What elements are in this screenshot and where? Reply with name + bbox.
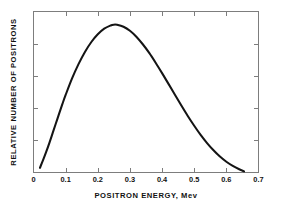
chart-background <box>0 0 282 208</box>
x-tick-label-2: 0.2 <box>93 175 103 184</box>
x-tick-label-0: 0 <box>31 175 35 184</box>
x-tick-label-7: 0.7 <box>253 175 263 184</box>
positron-spectrum-chart: 00.10.20.30.40.50.60.7 POSITRON ENERGY, … <box>0 0 282 208</box>
x-tick-label-4: 0.4 <box>157 175 168 184</box>
x-tick-label-5: 0.5 <box>189 175 199 184</box>
x-tick-label-1: 0.1 <box>61 175 71 184</box>
y-axis-title: RELATIVE NUMBER OF POSITRONS <box>9 18 18 165</box>
x-axis-title: POSITRON ENERGY, Mev <box>95 191 198 200</box>
x-tick-label-6: 0.6 <box>221 175 231 184</box>
chart-figure: 00.10.20.30.40.50.60.7 POSITRON ENERGY, … <box>0 0 282 208</box>
x-tick-label-3: 0.3 <box>125 175 135 184</box>
